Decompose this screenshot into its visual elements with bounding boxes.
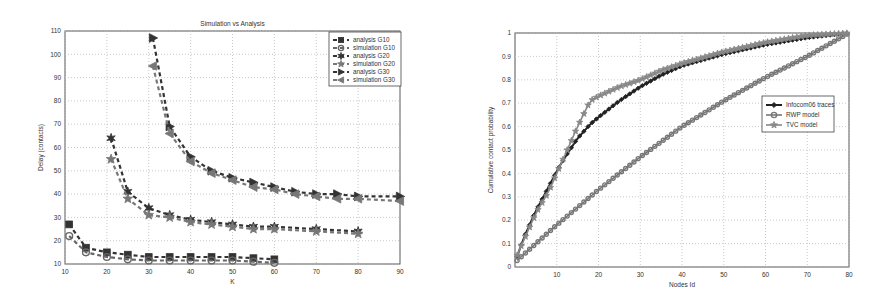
legend-item: analysis G10 [333,36,390,44]
x-tick-label: 50 [720,271,728,278]
y-tick-label: 60 [54,144,62,151]
x-tick-label: 50 [229,268,237,275]
y-tick-label: 0.3 [502,193,511,200]
y-tick-label: 110 [51,27,62,34]
legend-label: RWP model [786,111,819,118]
x-tick-label: 80 [355,268,363,275]
x-tick-label: 60 [271,268,279,275]
x-tick-label: 20 [103,268,111,275]
square-marker [66,221,73,228]
legend-label: simulation G30 [353,76,395,83]
legend-item: simulation G30 [333,76,395,83]
x-tick-label: 30 [145,268,153,275]
delay-vs-k-chart: 1020304050607080901020304050607080901001… [0,0,440,300]
y-tick-label: 0.1 [502,240,511,247]
legend-item: analysis G20 [333,52,390,60]
y-tick-label: 0.7 [502,99,511,106]
x-tick-label: 40 [187,268,195,275]
legend-item: TVC model [766,121,818,128]
x-tick-label: 20 [595,271,603,278]
legend-item: RWP model [766,111,819,118]
legend-item: simulation G10 [333,44,395,51]
chart-title: Simulation vs Analysis [200,20,265,28]
y-axis-label: Cumulative contact probability [487,106,495,193]
y-tick-label: 50 [54,167,62,174]
x-tick-label: 60 [762,271,770,278]
y-tick-label: 0.8 [502,76,511,83]
x-axis-label: Nodes Id [669,281,695,288]
legend-label: analysis G30 [353,68,390,76]
legend-label: simulation G20 [353,60,395,67]
y-tick-label: 0.2 [502,216,511,223]
x-tick-label: 70 [804,271,812,278]
x-tick-label: 30 [637,271,645,278]
y-tick-label: 30 [54,214,62,221]
y-tick-label: 40 [54,190,62,197]
y-tick-label: 0.5 [502,146,511,153]
contact-chart-plot: 102030405060708000.10.20.30.40.50.60.70.… [444,0,888,300]
y-tick-label: 20 [54,237,62,244]
delay-chart-plot: 1020304050607080901020304050607080901001… [0,0,440,300]
y-tick-label: 80 [54,97,62,104]
y-tick-label: 1 [507,29,511,36]
x-tick-label: 10 [61,268,69,275]
legend-label: simulation G10 [353,44,395,51]
x-axis-label: K [230,278,235,285]
x-tick-label: 90 [396,268,404,275]
y-tick-label: 0.6 [502,123,511,130]
legend: Infocom06 tracesRWP modelTVC model [762,96,834,132]
cumulative-contact-chart: 102030405060708000.10.20.30.40.50.60.70.… [444,0,888,300]
legend-label: Infocom06 traces [786,101,834,108]
y-tick-label: 10 [54,260,62,267]
y-tick-label: 100 [50,51,61,58]
y-tick-label: 90 [54,74,62,81]
x-tick-label: 40 [678,271,686,278]
y-tick-label: 0.4 [502,170,511,177]
x-tick-label: 10 [553,271,561,278]
x-tick-label: 80 [845,271,853,278]
y-tick-label: 70 [54,120,62,127]
x-tick-label: 70 [313,268,321,275]
y-tick-label: 0 [507,263,511,270]
y-axis-label: Delay (contacts) [37,124,45,171]
legend-label: TVC model [786,121,818,128]
square-marker [338,37,343,42]
y-tick-label: 0.9 [502,53,511,60]
legend: analysis G10simulation G10analysis G20si… [329,32,401,86]
legend-label: analysis G10 [353,36,390,44]
legend-label: analysis G20 [353,52,390,60]
